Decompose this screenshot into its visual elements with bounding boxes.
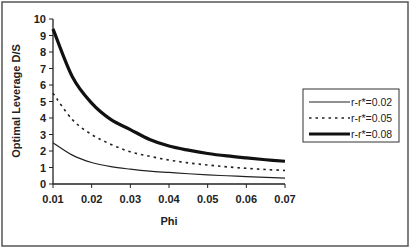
y-tick-label: 0 <box>40 178 46 190</box>
y-tick-label: 10 <box>34 13 46 25</box>
x-axis-title: Phi <box>160 215 177 227</box>
x-tick-label: 0.07 <box>274 193 295 205</box>
y-tick-label: 1 <box>40 162 46 174</box>
x-tick-label: 0.01 <box>42 193 63 205</box>
legend-label: r-r*=0.02 <box>351 96 392 108</box>
x-tick-label: 0.03 <box>120 193 141 205</box>
y-tick-label: 2 <box>40 145 46 157</box>
y-tick-label: 9 <box>40 30 46 42</box>
y-tick-label: 6 <box>40 79 46 91</box>
x-tick-label: 0.05 <box>197 193 218 205</box>
y-tick-label: 8 <box>40 46 46 58</box>
line-chart: 0123456789100.010.020.030.040.050.060.07… <box>0 0 410 250</box>
legend-label: r-r*=0.08 <box>351 128 392 140</box>
y-tick-label: 3 <box>40 129 46 141</box>
y-tick-label: 4 <box>40 112 47 124</box>
y-tick-label: 7 <box>40 63 46 75</box>
legend: r-r*=0.02r-r*=0.05r-r*=0.08 <box>303 89 399 142</box>
legend-label: r-r*=0.05 <box>351 112 392 124</box>
y-axis-title: Optimal Leverage D/S <box>10 44 22 158</box>
x-tick-label: 0.04 <box>158 193 180 205</box>
y-tick-label: 5 <box>40 96 46 108</box>
x-tick-label: 0.06 <box>236 193 257 205</box>
x-tick-label: 0.02 <box>81 193 102 205</box>
